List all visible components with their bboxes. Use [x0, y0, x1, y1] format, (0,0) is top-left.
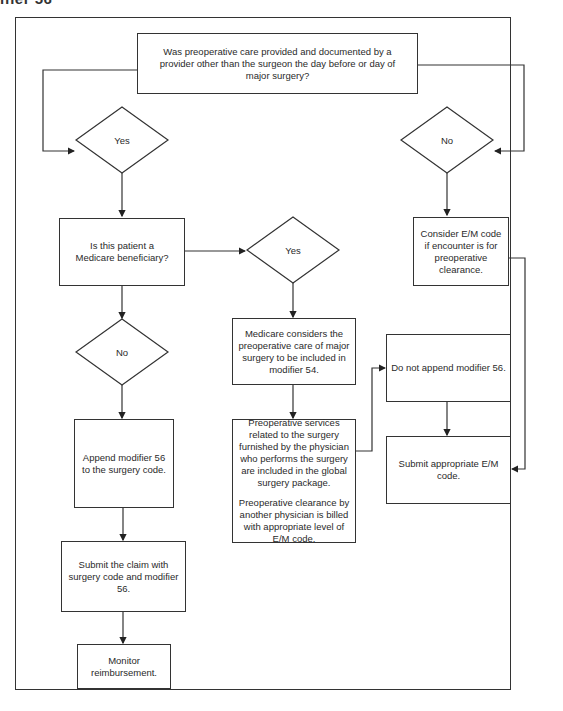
preop-services-text: Preoperative services related to the sur…: [237, 417, 351, 489]
medicare-question-text: Is this patient a Medicare beneficiary?: [72, 240, 172, 264]
submit-em-box: Submit appropriate E/M code.: [386, 436, 511, 504]
preop-clearance-text: Preoperative clearance by another physic…: [237, 497, 351, 545]
submit-em-text: Submit appropriate E/M code.: [391, 458, 506, 482]
medicare-question-box: Is this patient a Medicare beneficiary?: [59, 218, 185, 286]
preop-services-box: Preoperative services related to the sur…: [232, 419, 356, 543]
decision-yes-top-label: Yes: [114, 135, 130, 146]
decision-yes-medicare-label: Yes: [285, 245, 301, 256]
consider-em-text: Consider E/M code if encounter is for pr…: [418, 228, 504, 276]
append-modifier-text: Append modifier 56 to the surgery code.: [79, 452, 169, 476]
start-question-box: Was preoperative care provided and docum…: [137, 33, 418, 94]
do-not-append-box: Do not append modifier 56.: [386, 334, 511, 402]
medicare-considers-text: Medicare considers the preoperative care…: [237, 328, 351, 376]
submit-claim-text: Submit the claim with surgery code and m…: [66, 559, 181, 595]
monitor-box: Monitor reimbursement.: [77, 644, 171, 689]
start-question-text: Was preoperative care provided and docum…: [152, 46, 403, 82]
decision-no-medicare-label: No: [116, 347, 128, 358]
medicare-considers-box: Medicare considers the preoperative care…: [232, 318, 356, 385]
append-modifier-box: Append modifier 56 to the surgery code.: [74, 419, 174, 508]
submit-claim-box: Submit the claim with surgery code and m…: [61, 541, 186, 612]
decision-no-top-label: No: [441, 135, 453, 146]
monitor-text: Monitor reimbursement.: [82, 655, 166, 679]
do-not-append-text: Do not append modifier 56.: [391, 362, 506, 374]
consider-em-box: Consider E/M code if encounter is for pr…: [413, 217, 509, 286]
